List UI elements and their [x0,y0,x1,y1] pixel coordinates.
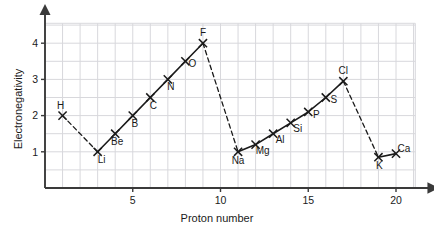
x-axis-ticks: 5101520 [130,188,402,206]
x-tick-label: 10 [215,194,227,206]
x-tick-label: 20 [390,194,402,206]
y-tick-label: 3 [32,73,38,85]
y-tick-label: 4 [32,37,38,49]
point-label-C: C [150,100,157,111]
point-label-P: P [313,109,320,120]
point-label-Li: Li [98,154,106,165]
electronegativity-chart: 5101520 1234 HLiBeBCNOFNaMgAlSiPSClKCa P… [0,0,434,232]
point-label-O: O [189,58,197,69]
y-axis-title: Electronegativity [12,44,24,174]
point-label-B: B [131,118,138,129]
point-label-Cl: Cl [339,65,348,76]
point-label-S: S [330,94,337,105]
point-label-Ca: Ca [398,143,411,154]
data-point-labels: HLiBeBCNOFNaMgAlSiPSClKCa [57,27,411,171]
point-label-K: K [376,160,383,171]
point-label-Na: Na [232,155,245,166]
point-label-Al: Al [276,134,285,145]
y-axis-ticks: 1234 [32,37,45,158]
y-tick-label: 2 [32,109,38,121]
data-point-markers [58,39,400,161]
x-axis-title: Proton number [0,212,434,224]
point-label-Si: Si [293,123,302,134]
x-tick-label: 15 [302,194,314,206]
point-label-Be: Be [111,136,124,147]
point-label-N: N [167,81,174,92]
point-label-F: F [200,27,206,38]
x-tick-label: 5 [130,194,136,206]
y-tick-label: 1 [32,146,38,158]
point-label-H: H [57,100,64,111]
point-label-Mg: Mg [256,145,270,156]
chart-plot-area: 5101520 1234 HLiBeBCNOFNaMgAlSiPSClKCa [0,0,434,232]
